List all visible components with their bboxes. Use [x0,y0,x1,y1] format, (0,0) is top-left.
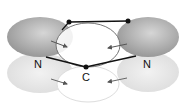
carbon-label: C [82,72,90,83]
upper-right-lobe [117,17,179,57]
top-left-atom-dot [67,20,72,25]
carbon-atom-dot [84,65,89,70]
upper-central-orbital [56,23,120,67]
top-right-atom-dot [126,19,131,24]
nitrogen-left-label: N [34,59,42,70]
nitrogen-right-label: N [143,59,151,70]
orbital-diagram [0,0,193,108]
top-bond [69,21,128,22]
